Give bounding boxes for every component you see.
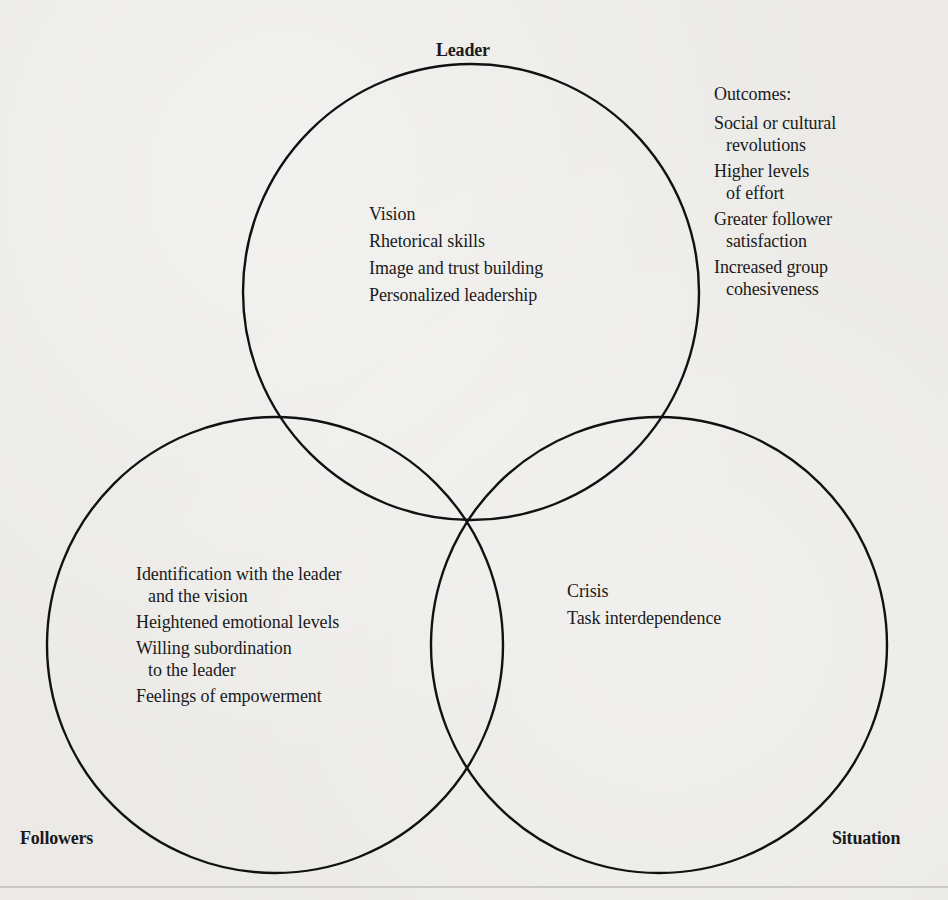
situation-factor: Crisis <box>567 580 721 602</box>
follower-line1: Identification with the leader <box>136 564 341 584</box>
outcome-line1: Higher levels <box>714 161 809 181</box>
leader-factor: Rhetorical skills <box>369 230 543 252</box>
leader-factor: Vision <box>369 203 543 225</box>
page-divider <box>0 886 948 888</box>
outcome-line2: revolutions <box>714 134 836 156</box>
situation-circle <box>431 417 887 873</box>
follower-line1: Feelings of empowerment <box>136 686 322 706</box>
outcome-line1: Greater follower <box>714 209 832 229</box>
follower-line1: Heightened emotional levels <box>136 612 339 632</box>
follower-line2: to the leader <box>136 659 341 681</box>
outcome-item: Higher levels of effort <box>714 160 836 204</box>
leader-factor: Personalized leadership <box>369 284 543 306</box>
follower-line1: Willing subordination <box>136 638 292 658</box>
follower-factor: Heightened emotional levels <box>136 611 341 633</box>
outcome-line1: Social or cultural <box>714 113 836 133</box>
outcomes-list: Outcomes: Social or cultural revolutions… <box>714 83 836 304</box>
situation-factor: Task interdependence <box>567 607 721 629</box>
outcome-line2: satisfaction <box>714 230 836 252</box>
situation-factors-list: Crisis Task interdependence <box>567 580 721 634</box>
follower-factors-list: Identification with the leader and the v… <box>136 563 341 711</box>
leader-label: Leader <box>436 40 490 61</box>
outcomes-heading: Outcomes: <box>714 83 836 105</box>
outcome-line2: of effort <box>714 182 836 204</box>
follower-factor: Identification with the leader and the v… <box>136 563 341 607</box>
follower-line2: and the vision <box>136 585 341 607</box>
leader-factors-list: Vision Rhetorical skills Image and trust… <box>369 203 543 311</box>
followers-label: Followers <box>20 828 93 849</box>
outcome-line2: cohesiveness <box>714 278 836 300</box>
outcome-item: Social or cultural revolutions <box>714 112 836 156</box>
follower-factor: Willing subordination to the leader <box>136 637 341 681</box>
outcome-item: Increased group cohesiveness <box>714 256 836 300</box>
leader-factor: Image and trust building <box>369 257 543 279</box>
follower-factor: Feelings of empowerment <box>136 685 341 707</box>
outcome-line1: Increased group <box>714 257 828 277</box>
outcome-item: Greater follower satisfaction <box>714 208 836 252</box>
situation-label: Situation <box>832 828 900 849</box>
